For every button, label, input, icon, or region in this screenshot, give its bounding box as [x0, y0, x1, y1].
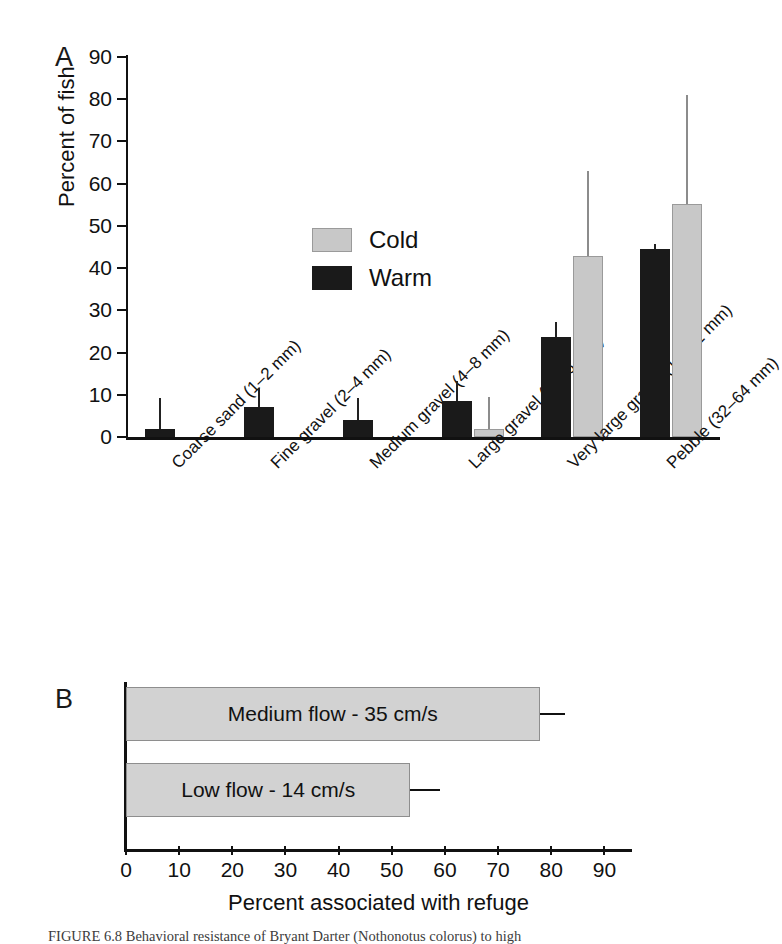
panel-a-error-bar-warm [555, 322, 557, 337]
panel-a-y-tick [117, 436, 126, 438]
legend-label-warm: Warm [369, 264, 432, 292]
panel-a-bar-warm [244, 407, 274, 437]
panel-b-letter: B [55, 684, 73, 715]
panel-a-y-tick-label: 0 [72, 426, 112, 447]
figure-caption: FIGURE 6.8 Behavioral resistance of Brya… [48, 928, 748, 944]
panel-b-x-tick-label: 30 [265, 858, 305, 882]
panel-b-x-tick-label: 70 [478, 858, 518, 882]
panel-a-error-bar-warm [456, 381, 458, 401]
panel-b-x-tick [338, 846, 340, 855]
panel-a-y-tick-label: 20 [72, 342, 112, 363]
panel-a-bar-cold [672, 204, 702, 437]
panel-a-plot-area: Percent of fish 9080706050403020100Coars… [126, 57, 720, 437]
panel-a-y-tick-label: 30 [72, 299, 112, 320]
panel-b-x-tick [603, 846, 605, 855]
panel-a-y-tick [117, 98, 126, 100]
legend-swatch-warm [312, 266, 352, 290]
panel-b-x-tick-label: 80 [531, 858, 571, 882]
panel-a-y-tick-label: 40 [72, 257, 112, 278]
panel-b-x-axis-label: Percent associated with refuge [126, 890, 631, 916]
panel-b-x-tick [391, 846, 393, 855]
panel-a-error-bar-warm [357, 398, 359, 420]
panel-b-x-tick [284, 846, 286, 855]
panel-b-x-tick-label: 90 [584, 858, 624, 882]
panel-a-error-bar-warm [654, 244, 656, 249]
panel-a-error-bar-cold [587, 171, 589, 256]
panel-b-bar-label: Low flow - 14 cm/s [126, 778, 410, 802]
panel-b-x-tick-label: 40 [319, 858, 359, 882]
panel-a-bar-warm [343, 420, 373, 437]
panel-b-x-tick-label: 50 [372, 858, 412, 882]
panel-a-bar-warm [541, 337, 571, 437]
panel-a-y-tick [117, 56, 126, 58]
panel-a-error-bar-cold [686, 95, 688, 204]
panel-a-bar-warm [442, 401, 472, 437]
panel-a-y-tick-label: 10 [72, 384, 112, 405]
panel-b-x-tick-label: 20 [212, 858, 252, 882]
panel-a-y-tick [117, 225, 126, 227]
panel-b-x-tick [231, 846, 233, 855]
panel-b-x-tick-label: 10 [159, 858, 199, 882]
panel-b-x-tick-label: 60 [425, 858, 465, 882]
panel-a-error-bar-warm [159, 398, 161, 429]
panel-a-y-tick-label: 60 [72, 173, 112, 194]
panel-a-y-tick-label: 90 [72, 46, 112, 67]
panel-b-x-tick [550, 846, 552, 855]
panel-b-x-tick [497, 846, 499, 855]
panel-a-bar-warm [640, 249, 670, 437]
panel-a-y-tick [117, 140, 126, 142]
panel-b-x-axis-line [124, 849, 632, 852]
panel-b: B 0102030405060708090Percent associated … [0, 650, 757, 944]
legend-swatch-cold [312, 228, 352, 252]
panel-a-y-tick [117, 267, 126, 269]
panel-b-x-tick [178, 846, 180, 855]
panel-a-y-tick [117, 309, 126, 311]
panel-b-x-tick [125, 846, 127, 855]
panel-a-bar-cold [573, 256, 603, 437]
panel-b-x-tick [444, 846, 446, 855]
panel-a-error-bar-warm [258, 388, 260, 406]
legend-label-cold: Cold [369, 226, 418, 254]
panel-a-y-tick-label: 70 [72, 130, 112, 151]
panel-b-plot-area: 0102030405060708090Percent associated wi… [126, 685, 631, 846]
panel-a-y-tick-label: 50 [72, 215, 112, 236]
panel-b-x-tick-label: 0 [106, 858, 146, 882]
panel-a-y-tick-label: 80 [72, 88, 112, 109]
panel-a-bar-warm [145, 429, 175, 437]
panel-a-y-tick [117, 394, 126, 396]
panel-b-error-bar [410, 789, 439, 791]
panel-b-bar-label: Medium flow - 35 cm/s [126, 702, 540, 726]
panel-a-error-bar-cold [488, 397, 490, 429]
panel-a-y-tick [117, 352, 126, 354]
panel-b-error-bar [540, 713, 565, 715]
panel-a: A Percent of fish 9080706050403020100Coa… [0, 0, 757, 650]
panel-a-y-tick [117, 183, 126, 185]
